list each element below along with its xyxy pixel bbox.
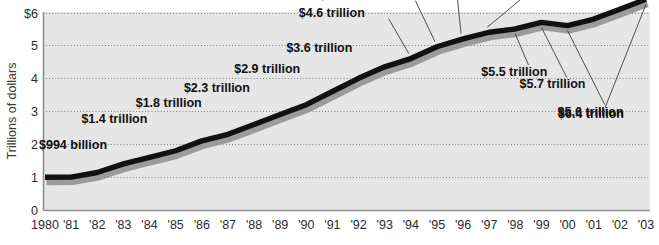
y-axis-tick-label: $6 <box>24 7 38 21</box>
y-axis-tick-label: 2 <box>31 138 38 152</box>
x-axis-tick-label: '92 <box>350 218 366 232</box>
annotation-label: $4.6 trillion <box>299 6 365 20</box>
x-axis-tick-label: '84 <box>141 218 157 232</box>
x-axis-tick-label: '99 <box>533 218 549 232</box>
x-axis-tick-label: '98 <box>507 218 523 232</box>
y-axis-tick-labels: $6543210 <box>24 7 38 218</box>
x-axis-tick-label: '87 <box>220 218 236 232</box>
x-axis-tick-label: '81 <box>63 218 79 232</box>
x-axis-tick-label: '89 <box>272 218 288 232</box>
y-axis-tick-label: 0 <box>31 204 38 218</box>
annotation-label: $4.96 trillion <box>319 0 392 2</box>
x-axis-tick-label: '90 <box>298 218 314 232</box>
x-axis-tick-label: 1980 <box>31 218 59 232</box>
x-axis-tick-label: '96 <box>455 218 471 232</box>
debt-line-chart: $6543210 1980'81'82'83'84'85'86'87'88'89… <box>0 0 659 245</box>
x-axis-tick-label: '93 <box>377 218 393 232</box>
x-axis-tick-label: '82 <box>89 218 105 232</box>
annotation-label: $1.4 trillion <box>81 112 147 126</box>
chart-canvas: $6543210 1980'81'82'83'84'85'86'87'88'89… <box>0 0 659 245</box>
x-axis-tick-label: '02 <box>612 218 628 232</box>
x-axis-tick-label: '94 <box>403 218 419 232</box>
annotation-label: $994 billion <box>39 138 107 152</box>
x-axis-tick-label: '86 <box>194 218 210 232</box>
x-axis-tick-label: '83 <box>115 218 131 232</box>
x-axis-tick-label: '03 <box>638 218 654 232</box>
annotation-label: $1.8 trillion <box>136 96 202 110</box>
x-axis-tick-label: '91 <box>324 218 340 232</box>
annotation-label: $2.9 trillion <box>234 62 300 76</box>
annotation-label: $2.3 trillion <box>184 81 250 95</box>
annotation-label: $3.6 trillion <box>286 41 352 55</box>
x-axis-tick-label: '88 <box>246 218 262 232</box>
annotation-label: $5.7 trillion <box>520 77 586 91</box>
y-axis-tick-label: 1 <box>31 171 38 185</box>
annotation-label: $6.4 trillion <box>558 107 624 121</box>
x-axis-tick-label: '00 <box>559 218 575 232</box>
x-axis-tick-label: '97 <box>481 218 497 232</box>
x-axis-tick-label: '85 <box>168 218 184 232</box>
x-axis-tick-label: '01 <box>586 218 602 232</box>
y-axis-title: Trillions of dollars <box>5 63 19 160</box>
x-axis-tick-label: '95 <box>429 218 445 232</box>
x-axis-tick-labels: 1980'81'82'83'84'85'86'87'88'89'90'91'92… <box>31 218 654 232</box>
y-axis-tick-label: 3 <box>31 105 38 119</box>
y-axis-tick-label: 5 <box>31 39 38 53</box>
y-axis-tick-label: 4 <box>31 72 38 86</box>
